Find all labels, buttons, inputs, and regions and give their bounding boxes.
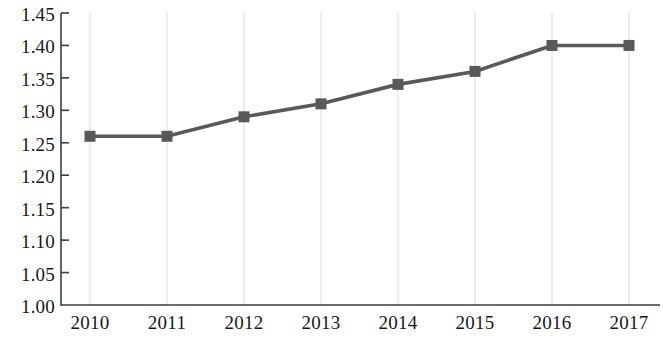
x-tick-label-2010: 2010 — [50, 312, 130, 334]
x-tick-label-2013: 2013 — [281, 312, 361, 334]
x-tick-label-2014: 2014 — [358, 312, 438, 334]
line-chart: 1.45 1.40 1.35 1.30 1.25 1.20 1.15 1.10 … — [0, 0, 663, 344]
x-tick-label-2016: 2016 — [512, 312, 592, 334]
x-tick-label-2017: 2017 — [589, 312, 663, 334]
x-tick-label-2015: 2015 — [435, 312, 515, 334]
x-tick-label-2012: 2012 — [204, 312, 284, 334]
x-tick-label-2011: 2011 — [127, 312, 207, 334]
x-axis-tick-labels: 2010 2011 2012 2013 2014 2015 2016 2017 — [0, 0, 663, 344]
